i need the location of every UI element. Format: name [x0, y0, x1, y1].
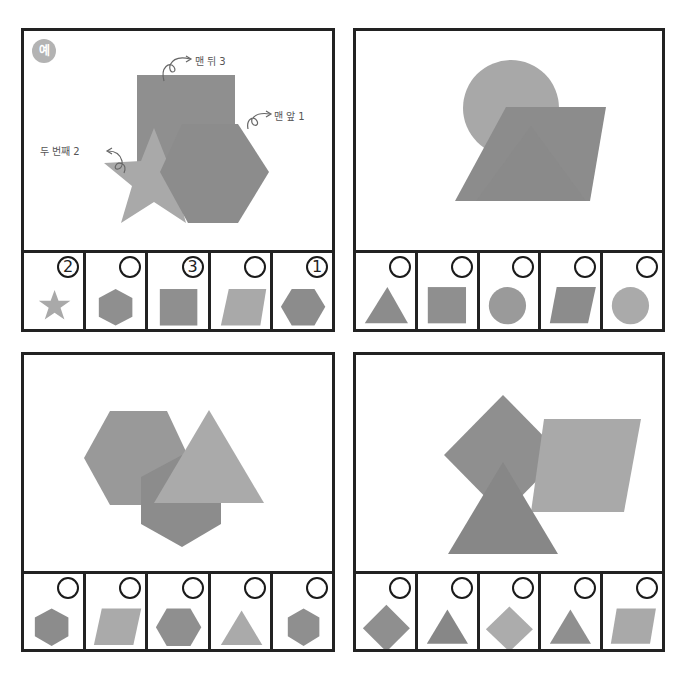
parallelogram-icon	[603, 574, 662, 649]
problem-2-shapes	[24, 355, 338, 577]
option-parallelogram[interactable]	[86, 574, 148, 649]
option-parallelogram[interactable]	[211, 253, 273, 329]
option-square[interactable]	[418, 253, 480, 329]
square-icon	[148, 253, 207, 329]
option-triangle[interactable]	[541, 574, 603, 649]
square-icon	[418, 253, 477, 329]
problem-3-shapes	[356, 355, 668, 577]
diamond-icon	[480, 574, 539, 649]
problem-1-scene	[353, 28, 665, 253]
problem-1-answer-row	[353, 253, 665, 332]
option-hexagon[interactable]: 1	[273, 253, 332, 329]
option-parallelogram[interactable]	[541, 253, 603, 329]
option-circle[interactable]	[603, 253, 662, 329]
problem-1-panel	[353, 28, 665, 332]
problem-2-scene	[21, 352, 335, 574]
problem-2-panel	[21, 352, 335, 652]
option-parallelogram[interactable]	[603, 574, 662, 649]
example-panel: 예 맨 뒤 3 맨 앞 1 두 번째 2 2	[21, 28, 335, 332]
hexagon-icon	[148, 574, 207, 649]
example-scene: 예 맨 뒤 3 맨 앞 1 두 번째 2	[21, 28, 335, 253]
option-diamond[interactable]	[480, 574, 542, 649]
option-triangle[interactable]	[211, 574, 273, 649]
annotation-front: 맨 앞 1	[274, 108, 305, 123]
parallelogram-shape	[531, 419, 641, 512]
hexagon-icon	[273, 253, 332, 329]
circle-icon	[480, 253, 539, 329]
option-square[interactable]: 3	[148, 253, 210, 329]
option-hexagon[interactable]	[86, 253, 148, 329]
option-circle[interactable]	[480, 253, 542, 329]
triangle-icon	[541, 574, 600, 649]
problem-2-answer-row	[21, 574, 335, 652]
triangle-icon	[418, 574, 477, 649]
problem-3-scene	[353, 352, 665, 574]
option-diamond[interactable]	[356, 574, 418, 649]
annotation-second: 두 번째 2	[40, 143, 80, 158]
example-answer-row: 2 3 1	[21, 253, 335, 332]
problem-3-panel	[353, 352, 665, 652]
option-star[interactable]: 2	[24, 253, 86, 329]
option-hexagon[interactable]	[24, 574, 86, 649]
hexagon-icon	[273, 574, 332, 649]
triangle-icon	[211, 574, 270, 649]
parallelogram-icon	[86, 574, 145, 649]
parallelogram-icon	[211, 253, 270, 329]
problem-3-answer-row	[353, 574, 665, 652]
option-triangle[interactable]	[418, 574, 480, 649]
option-hexagon[interactable]	[273, 574, 332, 649]
problem-1-shapes	[356, 31, 668, 256]
triangle-icon	[356, 253, 415, 329]
parallelogram-icon	[541, 253, 600, 329]
arrow-icon	[248, 114, 270, 129]
star-icon	[24, 253, 83, 329]
option-triangle[interactable]	[356, 253, 418, 329]
annotation-back: 맨 뒤 3	[195, 53, 226, 68]
hexagon-icon	[24, 574, 83, 649]
circle-icon	[603, 253, 662, 329]
option-hexagon[interactable]	[148, 574, 210, 649]
diamond-icon	[356, 574, 415, 649]
hexagon-icon	[86, 253, 145, 329]
